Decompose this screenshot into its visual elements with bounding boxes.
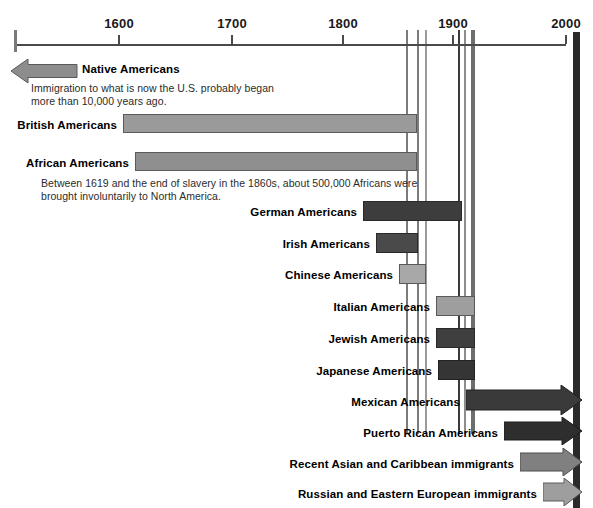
bar-british-americans (123, 114, 417, 133)
row-label-russian-eastern-european-immigrants: Russian and Eastern European immigrants (298, 488, 537, 500)
row-label-native-americans: Native Americans (82, 63, 180, 75)
bar-recent-asian-caribbean-immigrants (520, 448, 583, 476)
axis-left-cap (14, 30, 17, 52)
bar-irish-americans (376, 233, 418, 253)
row-label-mexican-americans: Mexican Americans (351, 396, 460, 408)
row-label-african-americans: African Americans (26, 157, 129, 169)
axis-tick-1600 (118, 35, 120, 44)
axis-label-1800: 1800 (328, 16, 358, 31)
bar-japanese-americans (438, 360, 475, 380)
timeline-axis (15, 44, 566, 46)
row-label-italian-americans: Italian Americans (333, 301, 430, 313)
note-native-americans: Immigration to what is now the U.S. prob… (31, 82, 274, 108)
bar-african-americans (135, 152, 417, 171)
bar-jewish-americans (436, 328, 475, 348)
row-label-chinese-americans: Chinese Americans (285, 269, 393, 281)
axis-label-1600: 1600 (104, 16, 134, 31)
axis-tick-2000 (565, 35, 567, 44)
row-label-jewish-americans: Jewish Americans (328, 333, 430, 345)
bar-mexican-americans (466, 385, 583, 415)
row-label-irish-americans: Irish Americans (283, 238, 370, 250)
bar-russian-eastern-european-immigrants (543, 478, 583, 506)
axis-tick-1900 (452, 35, 454, 44)
axis-label-1900: 1900 (438, 16, 468, 31)
row-label-german-americans: German Americans (250, 206, 357, 218)
bar-puerto-rican-americans (504, 417, 583, 445)
note-african-americans: Between 1619 and the end of slavery in t… (41, 177, 417, 203)
immigration-timeline-chart: 1600 1700 1800 1900 2000 Native American… (0, 0, 593, 508)
row-label-puerto-rican-americans: Puerto Rican Americans (363, 427, 498, 439)
axis-tick-1700 (231, 35, 233, 44)
bar-german-americans (363, 201, 462, 221)
axis-label-1700: 1700 (217, 16, 247, 31)
row-label-british-americans: British Americans (17, 119, 117, 131)
row-label-recent-asian-caribbean-immigrants: Recent Asian and Caribbean immigrants (290, 458, 514, 470)
axis-tick-1800 (342, 35, 344, 44)
axis-label-2000: 2000 (551, 16, 581, 31)
bar-native-americans (11, 58, 78, 84)
bar-chinese-americans (399, 264, 426, 284)
row-label-japanese-americans: Japanese Americans (316, 365, 432, 377)
bar-italian-americans (436, 296, 475, 316)
